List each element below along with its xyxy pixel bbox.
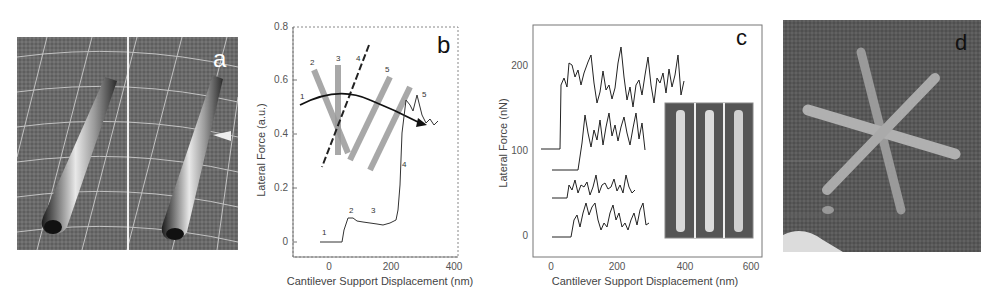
ytick-b-0: 0 (282, 236, 288, 247)
xtick-c-1: 200 (609, 261, 626, 272)
panel-a-image: a (17, 37, 238, 250)
trace-c-2 (552, 113, 645, 170)
xtick-b-2: 400 (446, 261, 463, 272)
xtick-b-1: 200 (383, 261, 400, 272)
ytick-b-4: 0.8 (274, 21, 288, 32)
afm-star-image (783, 20, 981, 252)
curve-label-2: 2 (349, 206, 354, 215)
ytick-b-3: 0.6 (274, 74, 288, 85)
rod-label-4: 4 (356, 54, 361, 63)
ytick-c-0: 0 (522, 230, 528, 241)
panel-label-c: c (736, 27, 747, 49)
xtick-c-0: 0 (548, 261, 554, 272)
xlabel-c: Cantilever Support Displacement (nm) (552, 275, 738, 287)
ytick-c-2: 200 (511, 60, 528, 71)
rod-label-3: 3 (336, 54, 341, 63)
ytick-c-1: 100 (511, 145, 528, 156)
afm-inset (665, 103, 753, 238)
panel-d-image: d (783, 20, 981, 252)
panel-label-d: d (955, 32, 967, 54)
panel-label-a: a (213, 47, 226, 71)
trace-c-3 (552, 175, 635, 198)
curve-label-3: 3 (371, 206, 376, 215)
ytick-b-2: 0.4 (274, 128, 288, 139)
xtick-b-0: 0 (326, 261, 332, 272)
trace-c-4 (552, 203, 649, 237)
plot-frame-b (293, 27, 458, 257)
inset-rod-2 (705, 110, 714, 232)
curve-label-1: 1 (322, 228, 327, 237)
chart-c: 0 100 200 0 200 400 600 Cantilever Suppo… (480, 15, 770, 300)
inset-rod-3 (734, 110, 743, 232)
xtick-c-3: 600 (743, 261, 760, 272)
ylabel-b: Lateral Force (a.u.) (255, 103, 267, 197)
rod-label-5: 5 (385, 65, 390, 74)
rod-label-1: 1 (300, 92, 305, 101)
afm-3d-render (17, 37, 238, 250)
xlabel-b: Cantilever Support Displacement (nm) (287, 275, 473, 287)
ytick-b-1: 0.2 (274, 182, 288, 193)
ylabel-c: Lateral Force (nN) (497, 98, 509, 187)
inset-rod-1 (676, 110, 685, 232)
curve-label-4: 4 (402, 160, 407, 169)
panel-label-b: b (437, 33, 450, 57)
rod-label-2: 2 (310, 58, 315, 67)
curve-label-5: 5 (422, 90, 427, 99)
panel-c-chart: 0 100 200 0 200 400 600 Cantilever Suppo… (480, 15, 770, 300)
xtick-c-2: 400 (677, 261, 694, 272)
panel-b-chart: 0 0.2 0.4 0.6 0.8 0 200 400 Cantilever S… (250, 15, 480, 300)
rod-schematic: 1 2 3 4 5 (300, 45, 427, 170)
